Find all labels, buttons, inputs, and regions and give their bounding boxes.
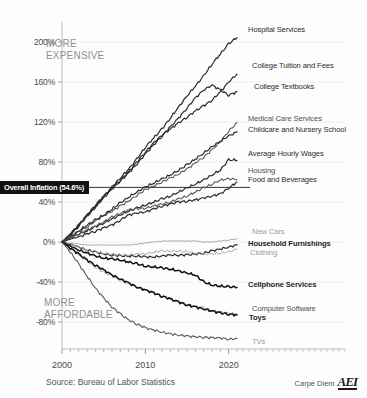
series-label: Medical Care Services (248, 115, 322, 124)
series-label: New Cars (252, 228, 285, 237)
x-axis-tick-label: 2020 (219, 360, 239, 370)
series-label: College Tuition and Fees (252, 62, 334, 71)
y-axis-tick-label: 40% (39, 197, 55, 207)
x-axis-minor-ticks (62, 349, 345, 354)
series-label: Cellphone Services (248, 281, 316, 290)
aei-logo: AEI (338, 376, 357, 390)
series-line (62, 159, 237, 242)
series-line (62, 74, 237, 242)
y-axis-tick-label: 120% (34, 117, 55, 127)
series-label: Childcare and Nursery School (248, 126, 346, 135)
x-axis-tick-label: 2000 (52, 360, 72, 370)
brand-mark: Carpe Diem AEI (295, 376, 357, 390)
series-label: Clothing (250, 249, 277, 258)
y-axis-tick-label: 0% (43, 237, 55, 247)
overall-inflation-badge: Overall Inflation (54.6%) (0, 181, 89, 194)
y-axis-tick-label: -40% (36, 277, 55, 287)
series-label: College Textbooks (254, 83, 314, 92)
series-label: Hospital Services (248, 26, 305, 35)
y-axis-tick-label: 80% (39, 157, 55, 167)
chart-root: 200%160%120%80%40%0%-40%-80% 20002010202… (0, 0, 367, 398)
y-axis-tick-label: 160% (34, 77, 55, 87)
brand-text: Carpe Diem (295, 379, 335, 388)
series-label: TVs (252, 338, 265, 347)
series-label: Food and Beverages (248, 176, 317, 185)
annotation-more-affordable: MORE AFFORDABLE (44, 297, 113, 320)
annotation-more-expensive: MORE EXPENSIVE (46, 38, 105, 61)
series-line (62, 85, 237, 242)
series-label: Average Hourly Wages (248, 150, 324, 159)
x-axis-tick-label: 2010 (135, 360, 155, 370)
series-label: Toys (249, 314, 266, 323)
source-note: Source: Bureau of Labor Statistics (46, 377, 175, 387)
